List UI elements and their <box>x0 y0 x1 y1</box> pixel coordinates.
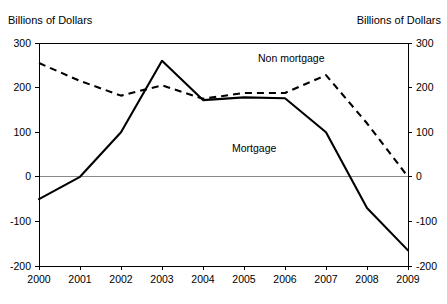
x-tick-label: 2001 <box>68 273 92 285</box>
x-axis-ticks: 2000200120022003200420052006200720082009 <box>27 266 420 285</box>
x-tick-label: 2000 <box>27 273 51 285</box>
non-mortgage-annotation: Non mortgage <box>258 52 325 66</box>
series-label-mortgage: Mortgage <box>232 142 277 154</box>
x-tick-label: 2005 <box>232 273 256 285</box>
left-tick-label: -200 <box>10 260 31 272</box>
x-tick-label: 2004 <box>191 273 215 285</box>
x-tick-label: 2002 <box>109 273 133 285</box>
data-series-group <box>39 61 408 251</box>
series-line-mortgage <box>39 61 408 251</box>
left-tick-label: 200 <box>13 81 31 93</box>
left-tick-label: 300 <box>13 37 31 49</box>
right-tick-label: 100 <box>416 126 434 138</box>
right-tick-label: 0 <box>416 170 422 182</box>
right-tick-label: -200 <box>416 260 437 272</box>
right-tick-label: -100 <box>416 215 437 227</box>
axis-frame <box>39 43 408 266</box>
x-tick-label: 2003 <box>150 273 174 285</box>
right-axis-ticks: -200-1000100200300 <box>408 37 437 272</box>
right-tick-label: 200 <box>416 81 434 93</box>
mortgage-annotation: Mortgage <box>232 142 277 154</box>
chart-container: Billions of Dollars Billions of Dollars … <box>0 0 447 304</box>
x-tick-label: 2009 <box>396 273 420 285</box>
line-chart-plot: -200-1000100200300 -200-1000100200300 20… <box>0 0 447 304</box>
series-label-non-mortgage: Non mortgage <box>258 52 325 64</box>
left-axis-ticks: -200-1000100200300 <box>10 37 39 272</box>
left-tick-label: 100 <box>13 126 31 138</box>
left-tick-label: 0 <box>25 170 31 182</box>
right-tick-label: 300 <box>416 37 434 49</box>
left-tick-label: -100 <box>10 215 31 227</box>
x-tick-label: 2006 <box>273 273 297 285</box>
x-tick-label: 2008 <box>355 273 379 285</box>
x-tick-label: 2007 <box>314 273 338 285</box>
